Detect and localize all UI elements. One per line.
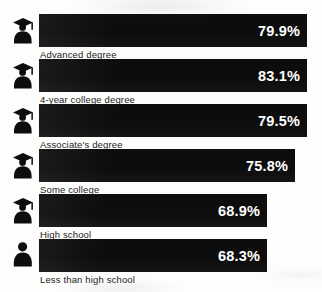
bar-value-label: 79.5% (258, 113, 300, 129)
bar-value-label: 68.9% (218, 203, 260, 219)
graduate-person-icon (9, 57, 37, 91)
bar-4-year-college-degree: 83.1% (39, 59, 307, 92)
graduate-person-icon (9, 12, 37, 46)
bar-value-label: 75.8% (246, 158, 288, 174)
graduate-person-icon (9, 147, 37, 181)
bar-value-label: 83.1% (258, 68, 300, 84)
bar-chart: 79.9% Advanced degree 83.1% 4-year colle… (0, 0, 322, 292)
category-label-less-than-high-school: Less than high school (40, 274, 135, 285)
bar-associates-degree: 79.5% (39, 104, 307, 137)
person-icon (9, 237, 37, 271)
bar-high-school: 68.9% (39, 194, 267, 227)
graduate-person-icon (9, 102, 37, 136)
bar-some-college: 75.8% (39, 149, 295, 182)
bar-value-label: 79.9% (258, 23, 300, 39)
bar-less-than-high-school: 68.3% (39, 239, 267, 272)
bar-value-label: 68.3% (218, 248, 260, 264)
bar-advanced-degree: 79.9% (39, 14, 307, 47)
graduate-person-icon (9, 192, 37, 226)
